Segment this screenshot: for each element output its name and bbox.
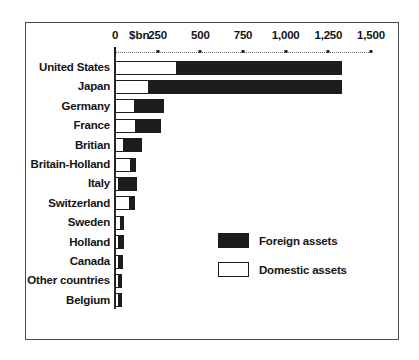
category-label: France [2,116,110,135]
x-axis-tick-dot [327,50,330,53]
bar-row: Holland [0,233,419,252]
bar-segment-foreign [135,119,161,133]
x-axis-tick-dot [156,50,159,53]
stacked-bar [115,293,120,307]
stacked-bar [115,138,143,152]
x-axis-tick-dot [199,50,202,53]
bar-segment-foreign [118,255,123,269]
bar-row: Belgium [0,291,419,310]
bar-row: Canada [0,252,419,271]
x-axis-tick-label: 1,500 [357,29,385,41]
bar-segment-domestic [115,158,131,172]
category-label: Belgium [2,291,110,310]
category-label: Switzerland [2,194,110,213]
x-axis-tick-dot [370,50,373,53]
bar-row: United States [0,58,419,77]
stacked-bar [115,216,123,230]
bar-segment-foreign [118,293,122,307]
x-axis-tick-dot [284,50,287,53]
legend-swatch-domestic [218,262,249,277]
bar-row: Italy [0,174,419,193]
legend-swatch-foreign [218,233,249,248]
stacked-bar [115,99,165,113]
bar-segment-foreign [130,158,136,172]
bar-row: Germany [0,97,419,116]
category-label: Sweden [2,213,110,232]
category-label: Japan [2,77,110,96]
legend-label: Foreign assets [259,232,337,250]
x-axis-tick-label: 1,000 [272,29,300,41]
stacked-bar [115,255,122,269]
bar-row: Britian [0,136,419,155]
bar-row: France [0,116,419,135]
bar-segment-foreign [118,235,124,249]
bar-row: Other countries [0,271,419,290]
x-axis-tick-label: 1,250 [314,29,342,41]
bar-segment-domestic [115,99,135,113]
bar-segment-domestic [115,80,149,94]
chart-canvas: 02505007501,0001,2501,500$bn United Stat… [0,0,419,360]
category-label: Germany [2,97,110,116]
stacked-bar [115,235,123,249]
category-label: Canada [2,252,110,271]
category-label: United States [2,58,110,77]
bar-segment-domestic [115,61,177,75]
x-axis-tick-label: 0 [112,29,118,41]
stacked-bar [115,274,120,288]
bar-segment-foreign [118,177,138,191]
category-label: Holland [2,233,110,252]
x-axis-origin-tick [114,47,116,55]
bar-segment-domestic [115,196,130,210]
stacked-bar [115,119,163,133]
stacked-bar [115,61,344,75]
bar-row: Japan [0,77,419,96]
x-axis-tick-label: 500 [191,29,210,41]
bar-segment-foreign [129,196,135,210]
category-label: Britain-Holland [2,155,110,174]
stacked-bar [115,80,344,94]
stacked-bar [115,158,137,172]
category-label: Britian [2,136,110,155]
x-axis-tick-label: 750 [234,29,253,41]
bar-segment-foreign [120,216,124,230]
bar-segment-domestic [115,119,136,133]
category-label: Italy [2,174,110,193]
stacked-bar [115,177,138,191]
bar-segment-foreign [176,61,342,75]
x-axis-tick-label: 250 [148,29,167,41]
bar-row: Sweden [0,213,419,232]
bar-row: Britain-Holland [0,155,419,174]
x-axis-tick-dot [242,50,245,53]
category-label: Other countries [2,271,110,290]
bar-segment-foreign [148,80,343,94]
x-axis-tick-labels: 02505007501,0001,2501,500$bn [0,29,419,45]
bar-segment-foreign [134,99,164,113]
bar-row: Switzerland [0,194,419,213]
bar-segment-foreign [118,274,122,288]
bar-segment-foreign [123,138,142,152]
legend-label: Domestic assets [259,261,347,279]
x-axis-unit-label: $bn [129,29,149,41]
stacked-bar [115,196,136,210]
